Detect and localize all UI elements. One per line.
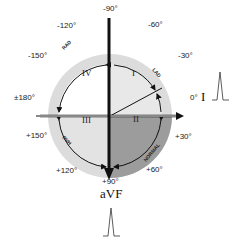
label-plus-60: +60°: [146, 165, 163, 174]
quadrant-ii-label: II: [133, 114, 139, 124]
avf-label: aVF: [100, 186, 122, 201]
label-minus-30: -30°: [178, 51, 193, 60]
label-plus-90: +90°: [102, 177, 119, 186]
quadrant-i-label: I: [132, 68, 135, 78]
label-minus-60: -60°: [148, 20, 163, 29]
label-plus-150: +150°: [26, 131, 47, 140]
lead-i-label: I: [201, 89, 205, 104]
cardiac-axis-diagram: -90° -120° -150° -60° -30° ±180° 0° +150…: [0, 0, 243, 246]
lead-i-waveform: [212, 72, 229, 100]
rad-label: RAD: [60, 39, 72, 51]
lead-i-arrowhead: [176, 112, 184, 120]
label-plus-30: +30°: [175, 132, 192, 141]
label-plus-120: +120°: [56, 166, 77, 175]
label-minus-120: -120°: [57, 21, 76, 30]
label-0: 0°: [190, 93, 198, 102]
label-180: ±180°: [14, 93, 35, 102]
label-minus-90: -90°: [103, 4, 118, 13]
label-minus-150: -150°: [28, 51, 47, 60]
quadrant-iii-label: III: [82, 115, 91, 125]
quadrant-iv-label: IV: [82, 68, 92, 78]
avf-waveform: [103, 208, 120, 236]
